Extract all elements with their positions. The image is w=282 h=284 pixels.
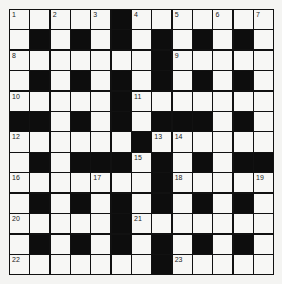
- grid-cell[interactable]: 16: [10, 173, 29, 192]
- grid-cell[interactable]: [193, 255, 212, 274]
- grid-cell[interactable]: 21: [132, 214, 151, 233]
- grid-cell[interactable]: 10: [10, 92, 29, 111]
- grid-cell[interactable]: 3: [91, 10, 110, 29]
- grid-cell[interactable]: [173, 92, 192, 111]
- grid-cell[interactable]: [152, 10, 171, 29]
- grid-cell[interactable]: [193, 132, 212, 151]
- grid-cell[interactable]: [112, 173, 131, 192]
- grid-cell[interactable]: [173, 214, 192, 233]
- grid-cell[interactable]: [51, 255, 70, 274]
- grid-cell[interactable]: [234, 173, 253, 192]
- grid-cell[interactable]: [213, 173, 232, 192]
- grid-cell[interactable]: [132, 255, 151, 274]
- grid-cell[interactable]: 1: [10, 10, 29, 29]
- grid-cell[interactable]: [71, 173, 90, 192]
- grid-cell[interactable]: [254, 194, 273, 213]
- grid-cell[interactable]: [152, 214, 171, 233]
- grid-cell[interactable]: [213, 71, 232, 90]
- grid-cell[interactable]: [234, 214, 253, 233]
- grid-cell[interactable]: [173, 30, 192, 49]
- grid-cell[interactable]: [132, 173, 151, 192]
- grid-cell[interactable]: [254, 92, 273, 111]
- grid-cell[interactable]: 13: [152, 132, 171, 151]
- grid-cell[interactable]: 5: [173, 10, 192, 29]
- grid-cell[interactable]: [91, 194, 110, 213]
- grid-cell[interactable]: [51, 92, 70, 111]
- grid-cell[interactable]: [254, 132, 273, 151]
- grid-cell[interactable]: 17: [91, 173, 110, 192]
- grid-cell[interactable]: 18: [173, 173, 192, 192]
- grid-cell[interactable]: [213, 235, 232, 254]
- grid-cell[interactable]: [71, 132, 90, 151]
- grid-cell[interactable]: [254, 71, 273, 90]
- grid-cell[interactable]: [213, 30, 232, 49]
- grid-cell[interactable]: [254, 30, 273, 49]
- grid-cell[interactable]: [213, 153, 232, 172]
- grid-cell[interactable]: 6: [213, 10, 232, 29]
- grid-cell[interactable]: 4: [132, 10, 151, 29]
- grid-cell[interactable]: [71, 255, 90, 274]
- grid-cell[interactable]: [10, 194, 29, 213]
- grid-cell[interactable]: [71, 51, 90, 70]
- grid-cell[interactable]: [10, 30, 29, 49]
- grid-cell[interactable]: [10, 153, 29, 172]
- grid-cell[interactable]: [51, 30, 70, 49]
- grid-cell[interactable]: [152, 92, 171, 111]
- grid-cell[interactable]: [173, 71, 192, 90]
- grid-cell[interactable]: [51, 51, 70, 70]
- grid-cell[interactable]: [91, 235, 110, 254]
- grid-cell[interactable]: [91, 30, 110, 49]
- grid-cell[interactable]: [254, 235, 273, 254]
- grid-cell[interactable]: [51, 153, 70, 172]
- grid-cell[interactable]: [213, 194, 232, 213]
- grid-cell[interactable]: [51, 235, 70, 254]
- grid-cell[interactable]: [30, 10, 49, 29]
- grid-cell[interactable]: 23: [173, 255, 192, 274]
- grid-cell[interactable]: [10, 71, 29, 90]
- grid-cell[interactable]: 14: [173, 132, 192, 151]
- grid-cell[interactable]: [91, 51, 110, 70]
- grid-cell[interactable]: [51, 71, 70, 90]
- grid-cell[interactable]: 11: [132, 92, 151, 111]
- grid-cell[interactable]: [132, 71, 151, 90]
- grid-cell[interactable]: [254, 214, 273, 233]
- grid-cell[interactable]: 8: [10, 51, 29, 70]
- grid-cell[interactable]: [91, 132, 110, 151]
- grid-cell[interactable]: [71, 92, 90, 111]
- grid-cell[interactable]: [173, 235, 192, 254]
- grid-cell[interactable]: [30, 132, 49, 151]
- grid-cell[interactable]: [51, 214, 70, 233]
- grid-cell[interactable]: [213, 132, 232, 151]
- grid-cell[interactable]: 19: [254, 173, 273, 192]
- grid-cell[interactable]: [51, 132, 70, 151]
- grid-cell[interactable]: [213, 92, 232, 111]
- grid-cell[interactable]: [254, 112, 273, 131]
- grid-cell[interactable]: [30, 92, 49, 111]
- grid-cell[interactable]: 7: [254, 10, 273, 29]
- grid-cell[interactable]: [30, 214, 49, 233]
- grid-cell[interactable]: 15: [132, 153, 151, 172]
- grid-cell[interactable]: [213, 255, 232, 274]
- grid-cell[interactable]: [30, 173, 49, 192]
- grid-cell[interactable]: [30, 51, 49, 70]
- grid-cell[interactable]: [254, 51, 273, 70]
- grid-cell[interactable]: [213, 51, 232, 70]
- grid-cell[interactable]: [234, 92, 253, 111]
- grid-cell[interactable]: [91, 92, 110, 111]
- grid-cell[interactable]: [91, 112, 110, 131]
- grid-cell[interactable]: 2: [51, 10, 70, 29]
- grid-cell[interactable]: 9: [173, 51, 192, 70]
- grid-cell[interactable]: [132, 235, 151, 254]
- grid-cell[interactable]: [132, 194, 151, 213]
- grid-cell[interactable]: [193, 214, 212, 233]
- grid-cell[interactable]: [30, 255, 49, 274]
- grid-cell[interactable]: [173, 194, 192, 213]
- grid-cell[interactable]: [193, 173, 212, 192]
- grid-cell[interactable]: [132, 112, 151, 131]
- grid-cell[interactable]: [193, 10, 212, 29]
- grid-cell[interactable]: [234, 255, 253, 274]
- grid-cell[interactable]: [193, 51, 212, 70]
- grid-cell[interactable]: [112, 132, 131, 151]
- grid-cell[interactable]: [234, 10, 253, 29]
- grid-cell[interactable]: [234, 51, 253, 70]
